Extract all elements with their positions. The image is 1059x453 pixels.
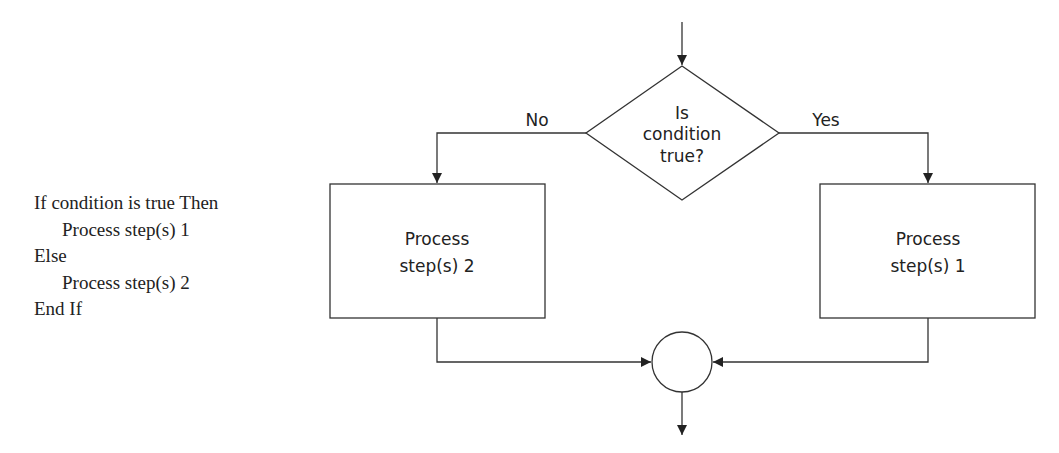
- no-label: No: [525, 110, 548, 130]
- yes-branch-arrow: [779, 133, 928, 183]
- decision-text-line1: Is: [675, 103, 689, 123]
- process-right-line2: step(s) 1: [890, 256, 965, 276]
- yes-label: Yes: [811, 110, 840, 130]
- process-left-line1: Process: [405, 229, 470, 249]
- process-left-line2: step(s) 2: [399, 256, 474, 276]
- flowchart: Is condition true? No Yes Process step(s…: [0, 0, 1059, 453]
- decision-text-line2: condition: [643, 124, 722, 144]
- right-return-arrow: [713, 318, 928, 362]
- process-box-left: [330, 184, 545, 318]
- merge-connector-circle: [652, 332, 712, 392]
- no-branch-arrow: [437, 133, 586, 183]
- process-box-right: [820, 184, 1035, 318]
- left-return-arrow: [437, 318, 651, 362]
- decision-text-line3: true?: [660, 146, 704, 166]
- process-right-line1: Process: [896, 229, 961, 249]
